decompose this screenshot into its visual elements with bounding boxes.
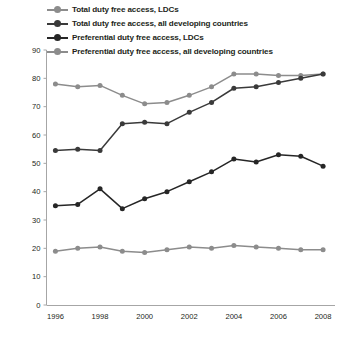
data-point — [298, 76, 303, 81]
y-tick-label: 40 — [32, 187, 40, 196]
y-tick-label: 10 — [32, 272, 40, 281]
x-tick-label: 2000 — [136, 312, 153, 321]
data-point — [209, 246, 214, 251]
data-point — [231, 86, 236, 91]
data-point — [254, 72, 259, 77]
data-point — [276, 246, 281, 251]
y-tick-label: 70 — [32, 102, 40, 111]
y-tick-label: 30 — [32, 216, 40, 225]
data-point — [231, 243, 236, 248]
data-point — [75, 246, 80, 251]
data-point — [53, 82, 58, 87]
data-point — [276, 80, 281, 85]
x-tick-label: 1998 — [92, 312, 109, 321]
data-point — [276, 152, 281, 157]
data-point — [120, 121, 125, 126]
data-point — [142, 196, 147, 201]
plot-area: 0102030405060708090 19961998200020022004… — [0, 0, 345, 342]
data-point — [120, 249, 125, 254]
data-point — [164, 189, 169, 194]
data-point — [164, 100, 169, 105]
data-point — [98, 148, 103, 153]
data-point — [187, 244, 192, 249]
data-point — [75, 84, 80, 89]
x-tick-label: 1996 — [47, 312, 64, 321]
series-0 — [53, 72, 326, 107]
data-point — [231, 72, 236, 77]
y-tick-group: 0102030405060708090 — [32, 46, 46, 310]
data-point — [142, 120, 147, 125]
y-tick-label: 50 — [32, 159, 40, 168]
data-point — [164, 121, 169, 126]
data-point — [298, 247, 303, 252]
data-point — [298, 154, 303, 159]
data-point — [209, 84, 214, 89]
series-layer — [53, 72, 326, 256]
y-tick-label: 60 — [32, 131, 40, 140]
y-axis: 0102030405060708090 — [32, 46, 46, 310]
data-point — [98, 244, 103, 249]
series-line — [55, 74, 323, 104]
data-point — [209, 169, 214, 174]
data-point — [321, 164, 326, 169]
data-point — [98, 186, 103, 191]
x-axis: 1996199820002002200420062008 — [47, 306, 336, 322]
data-point — [75, 147, 80, 152]
data-point — [120, 206, 125, 211]
data-point — [53, 148, 58, 153]
data-point — [187, 110, 192, 115]
chart-container: Total duty free access, LDCs Total duty … — [0, 0, 345, 342]
data-point — [53, 249, 58, 254]
x-tick-label: 2004 — [225, 312, 242, 321]
series-3 — [53, 243, 326, 255]
x-tick-label: 2008 — [315, 312, 332, 321]
data-point — [187, 179, 192, 184]
series-2 — [53, 152, 326, 211]
data-point — [254, 84, 259, 89]
data-point — [321, 247, 326, 252]
line-chart-svg: 0102030405060708090 19961998200020022004… — [0, 0, 345, 342]
series-1 — [53, 72, 326, 154]
data-point — [164, 247, 169, 252]
data-point — [321, 72, 326, 77]
data-point — [276, 73, 281, 78]
data-point — [98, 83, 103, 88]
data-point — [209, 100, 214, 105]
data-point — [75, 202, 80, 207]
data-point — [187, 93, 192, 98]
y-tick-label: 90 — [32, 46, 40, 55]
x-tick-label: 2006 — [270, 312, 287, 321]
y-tick-label: 80 — [32, 74, 40, 83]
data-point — [254, 159, 259, 164]
data-point — [231, 157, 236, 162]
data-point — [120, 93, 125, 98]
data-point — [254, 244, 259, 249]
y-tick-label: 0 — [36, 301, 40, 310]
data-point — [142, 101, 147, 106]
x-tick-group: 1996199820002002200420062008 — [47, 312, 332, 321]
x-tick-label: 2002 — [181, 312, 198, 321]
data-point — [53, 203, 58, 208]
y-tick-label: 20 — [32, 244, 40, 253]
data-point — [142, 250, 147, 255]
